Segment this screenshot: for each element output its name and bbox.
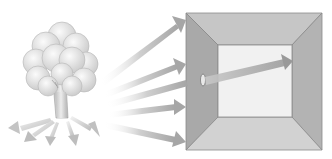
ray-arrow-5 (104, 122, 186, 147)
ray-arrow-1 (100, 16, 186, 86)
tree (23, 22, 98, 118)
root-arrows (8, 116, 100, 146)
tree-canopy (23, 22, 98, 96)
diagram-canvas (0, 0, 332, 159)
rays (100, 16, 188, 147)
hole-icon (201, 74, 206, 86)
root-arrow-4 (66, 121, 79, 146)
box-back-wall (218, 45, 292, 117)
root-arrow-5 (70, 116, 100, 137)
box (186, 13, 322, 150)
